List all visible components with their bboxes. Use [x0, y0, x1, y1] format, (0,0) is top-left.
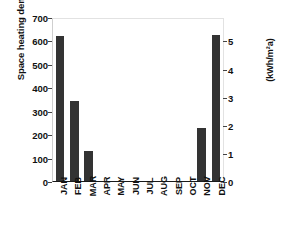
- y-tick-label-right: 5: [228, 36, 246, 47]
- y-tick-label-left: 0: [18, 177, 48, 188]
- x-tick-slot: MAY: [109, 184, 123, 236]
- y-tick-label-left: 200: [18, 130, 48, 141]
- bar-slot: [110, 19, 124, 181]
- bar-slot: [166, 19, 180, 181]
- y-tick-label-left: 700: [18, 13, 48, 24]
- x-tick-slot: MAR: [81, 184, 95, 236]
- x-tick-slot: APR: [95, 184, 109, 236]
- y-tick-mark-left: [48, 182, 52, 183]
- y-tick-label-left: 500: [18, 59, 48, 70]
- x-tick-slot: DEC: [210, 184, 224, 236]
- y-tick-label-left: 300: [18, 106, 48, 117]
- bar-slot: [181, 19, 195, 181]
- x-axis-labels: JANFEBMARAPRMAYJUNJULAUGSEPOCTNOVDEC: [52, 184, 224, 236]
- x-tick-slot: JAN: [52, 184, 66, 236]
- x-tick-slot: JUN: [124, 184, 138, 236]
- bar[interactable]: [70, 101, 79, 181]
- bar[interactable]: [197, 128, 206, 181]
- bar-slot: [124, 19, 138, 181]
- chart-figure: Space heating demand (kWh/a) (kWh/m²a) 0…: [0, 0, 281, 237]
- y-tick-label-right: 1: [228, 148, 246, 159]
- y-tick-mark-right: [223, 126, 227, 127]
- y-tick-mark-right: [223, 98, 227, 99]
- plot-area: [52, 18, 224, 182]
- x-tick-slot: FEB: [66, 184, 80, 236]
- bar-slot: [195, 19, 209, 181]
- x-tick-slot: AUG: [152, 184, 166, 236]
- bar-slot: [138, 19, 152, 181]
- y-axis-label-right: (kWh/m²a): [265, 0, 275, 120]
- bar-slot: [53, 19, 67, 181]
- y-tick-label-right: 4: [228, 64, 246, 75]
- bar-slot: [81, 19, 95, 181]
- x-tick-slot: JUL: [138, 184, 152, 236]
- y-tick-mark-right: [223, 41, 227, 42]
- bar[interactable]: [212, 35, 221, 181]
- y-axis-ticks-left: 0100200300400500600700: [14, 18, 48, 182]
- x-tick-label: DEC: [217, 176, 227, 195]
- x-tick-slot: OCT: [181, 184, 195, 236]
- y-tick-label-left: 400: [18, 83, 48, 94]
- bar-slot: [152, 19, 166, 181]
- x-tick-slot: NOV: [195, 184, 209, 236]
- bar-slot: [96, 19, 110, 181]
- y-tick-label-right: 3: [228, 92, 246, 103]
- y-tick-label-left: 600: [18, 36, 48, 47]
- y-tick-mark-right: [223, 70, 227, 71]
- y-tick-label-left: 100: [18, 153, 48, 164]
- y-axis-ticks-right: 012345: [228, 18, 248, 182]
- bar-series: [53, 19, 223, 181]
- y-tick-label-right: 0: [228, 177, 246, 188]
- bar[interactable]: [56, 36, 65, 181]
- y-tick-label-right: 2: [228, 120, 246, 131]
- bar-slot: [209, 19, 223, 181]
- y-tick-mark-right: [223, 154, 227, 155]
- bar-slot: [67, 19, 81, 181]
- x-tick-slot: SEP: [167, 184, 181, 236]
